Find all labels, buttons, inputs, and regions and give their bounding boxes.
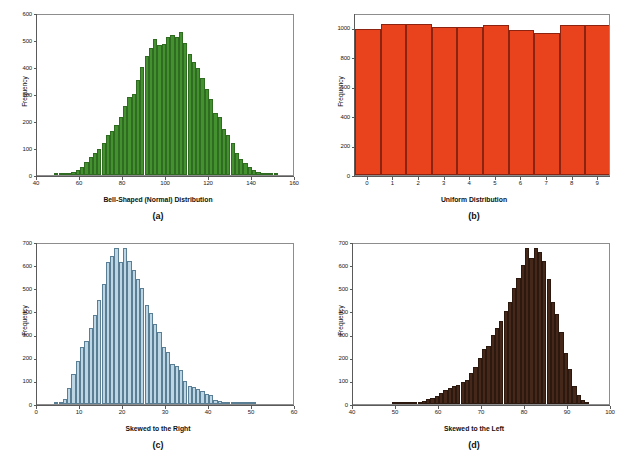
y-axis-spine (352, 243, 353, 405)
x-tick-label: 20 (112, 409, 132, 415)
x-tick-label: 50 (241, 409, 261, 415)
y-tick (34, 14, 37, 15)
bars-d (353, 244, 609, 404)
bars-c (37, 244, 293, 404)
panel-caption-a: (a) (0, 211, 316, 221)
histogram-bar (585, 402, 589, 404)
y-tick-label: 100 (0, 146, 32, 152)
y-tick (350, 359, 353, 360)
y-tick-label: 400 (318, 114, 350, 120)
x-tick-label: 1 (382, 180, 402, 186)
y-tick (34, 336, 37, 337)
panel-b: 02004006008001000 0123456789 Frequency U… (316, 0, 632, 229)
histogram-bar (534, 33, 560, 175)
panel-a: 0100200300400500600 406080100120140160 F… (0, 0, 316, 229)
x-tick-label: 0 (357, 180, 377, 186)
x-tick-label: 2 (408, 180, 428, 186)
y-tick (34, 289, 37, 290)
y-tick (350, 289, 353, 290)
x-tick-label: 9 (587, 180, 607, 186)
x-tick-label: 7 (536, 180, 556, 186)
x-tick-label: 100 (155, 180, 175, 186)
x-tick-label: 50 (385, 409, 405, 415)
y-axis-spine (36, 243, 37, 405)
x-tick-label: 80 (514, 409, 534, 415)
x-tick-label: 0 (26, 409, 46, 415)
y-tick (352, 29, 355, 30)
y-tick-label: 0 (316, 402, 348, 408)
y-tick-label: 100 (316, 378, 348, 384)
y-tick-label: 700 (316, 240, 348, 246)
histogram-bar (509, 30, 535, 175)
y-tick-label: 700 (0, 240, 32, 246)
x-tick-label: 10 (69, 409, 89, 415)
x-tick-label: 140 (241, 180, 261, 186)
y-tick (34, 149, 37, 150)
y-tick (350, 266, 353, 267)
y-axis-label-b: Frequency (337, 52, 344, 132)
y-tick (352, 147, 355, 148)
histogram-bar (406, 24, 432, 175)
y-tick-label: 0 (0, 173, 32, 179)
y-tick (34, 41, 37, 42)
y-tick (34, 312, 37, 313)
x-tick-label: 100 (600, 409, 620, 415)
x-axis-label-b: Uniform Distribution (316, 196, 632, 203)
histogram-bar (355, 29, 381, 175)
y-tick (352, 117, 355, 118)
histogram-bar (252, 402, 256, 404)
y-tick (350, 243, 353, 244)
x-tick-label: 40 (26, 180, 46, 186)
y-tick (34, 382, 37, 383)
x-tick-label: 6 (510, 180, 530, 186)
x-tick-label: 8 (562, 180, 582, 186)
bars-b (355, 15, 609, 175)
x-tick-label: 40 (342, 409, 362, 415)
y-tick-label: 600 (0, 263, 32, 269)
x-axis-label-d: Skewed to the Left (316, 425, 632, 432)
y-tick (350, 382, 353, 383)
x-tick-label: 30 (155, 409, 175, 415)
plot-area-a (36, 14, 294, 176)
y-tick (350, 312, 353, 313)
y-tick (34, 359, 37, 360)
x-tick-label: 120 (198, 180, 218, 186)
x-axis-label-a: Bell-Shaped (Normal) Distribution (0, 196, 316, 203)
y-tick-label: 600 (0, 11, 32, 17)
x-tick-label: 160 (284, 180, 304, 186)
histogram-bar (483, 25, 509, 175)
y-tick (34, 95, 37, 96)
histogram-bar (432, 27, 458, 175)
histogram-bar (585, 25, 609, 175)
y-tick (352, 88, 355, 89)
y-axis-spine (354, 14, 355, 176)
x-tick-label: 60 (69, 180, 89, 186)
y-tick (34, 266, 37, 267)
y-tick-label: 200 (318, 143, 350, 149)
y-tick (34, 122, 37, 123)
histogram-bar (274, 173, 278, 175)
panel-c: 0100200300400500600700 0102030405060 Fre… (0, 229, 316, 458)
x-tick-label: 5 (485, 180, 505, 186)
y-axis-label-a: Frequency (21, 52, 28, 132)
y-axis-label-c: Frequency (21, 281, 28, 361)
bars-a (37, 15, 293, 175)
histogram-bar (381, 24, 407, 175)
plot-area-b (354, 14, 610, 176)
x-tick-label: 80 (112, 180, 132, 186)
x-tick-label: 40 (198, 409, 218, 415)
x-tick-label: 70 (471, 409, 491, 415)
x-tick-label: 60 (428, 409, 448, 415)
y-tick (352, 58, 355, 59)
plot-area-d (352, 243, 610, 405)
panel-d: 0100200300400500600700 405060708090100 F… (316, 229, 632, 458)
histogram-bar (457, 27, 483, 175)
y-tick-label: 1000 (318, 25, 350, 31)
y-tick-label: 0 (0, 402, 32, 408)
histogram-bar (560, 25, 586, 175)
y-axis-spine (36, 14, 37, 176)
x-tick-label: 3 (434, 180, 454, 186)
x-tick-label: 90 (557, 409, 577, 415)
histogram-figure-grid: 0100200300400500600 406080100120140160 F… (0, 0, 632, 458)
y-tick-label: 0 (318, 173, 350, 179)
